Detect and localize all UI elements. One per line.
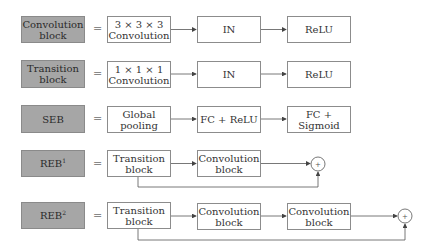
node-fc-sigmoid: FC + Sigmoid (287, 106, 351, 133)
label-line: block (39, 30, 66, 41)
node-in: IN (197, 61, 261, 88)
node-line: 3 × 3 × 3 (115, 19, 164, 30)
label-reb1: REB1 (21, 150, 85, 177)
node-line: FC + ReLU (200, 114, 257, 125)
node-line: Global (123, 109, 156, 120)
node-transition-block: Transition block (107, 202, 171, 229)
equals-sign: = (93, 112, 102, 125)
node-line: block (215, 217, 242, 228)
node-transition-block: Transition block (107, 150, 171, 177)
node-line: block (215, 164, 242, 175)
node-line: ReLU (305, 24, 333, 35)
node-line: block (305, 217, 332, 228)
node-line: Convolution (108, 30, 169, 41)
node-relu: ReLU (287, 61, 351, 88)
node-line: block (125, 164, 152, 175)
node-line: Transition (113, 205, 165, 216)
node-convolution-block: Convolution block (197, 203, 261, 230)
node-line: Convolution (288, 206, 349, 217)
node-line: IN (223, 24, 236, 35)
label-seb: SEB (21, 105, 85, 133)
node-in: IN (197, 16, 261, 43)
node-line: Convolution (198, 153, 259, 164)
equals-sign: = (93, 22, 102, 35)
node-line: ReLU (305, 69, 333, 80)
node-line: Transition (113, 153, 165, 164)
label-text: REB1 (40, 158, 66, 169)
node-relu: ReLU (287, 16, 351, 43)
node-1x1x1-convolution: 1 × 1 × 1 Convolution (107, 61, 171, 88)
node-line: FC + Sigmoid (288, 109, 350, 131)
label-convolution-block: Convolution block (21, 16, 85, 43)
label-text: REB2 (40, 210, 66, 221)
label-line: SEB (42, 114, 64, 125)
equals-sign: = (93, 67, 102, 80)
node-line: pooling (120, 120, 158, 131)
label-reb2: REB2 (21, 202, 85, 229)
plus-sign: + (315, 161, 321, 169)
node-convolution-block: Convolution block (287, 203, 351, 230)
node-line: 1 × 1 × 1 (115, 64, 164, 75)
label-line: block (39, 74, 66, 85)
node-global-pooling: Global pooling (107, 106, 171, 133)
label-line: Transition (27, 63, 79, 74)
skip-connection (138, 224, 405, 240)
label-transition-block: Transition block (21, 60, 85, 88)
node-fc-relu: FC + ReLU (197, 106, 261, 133)
label-line: Convolution (22, 19, 83, 30)
node-line: Convolution (198, 206, 259, 217)
node-line: Convolution (108, 75, 169, 86)
node-3x3x3-convolution: 3 × 3 × 3 Convolution (107, 16, 171, 43)
node-line: IN (223, 69, 236, 80)
equals-sign: = (93, 209, 102, 222)
node-convolution-block: Convolution block (197, 150, 261, 177)
plus-sign: + (402, 213, 408, 221)
equals-sign: = (93, 157, 102, 170)
node-line: block (125, 216, 152, 227)
